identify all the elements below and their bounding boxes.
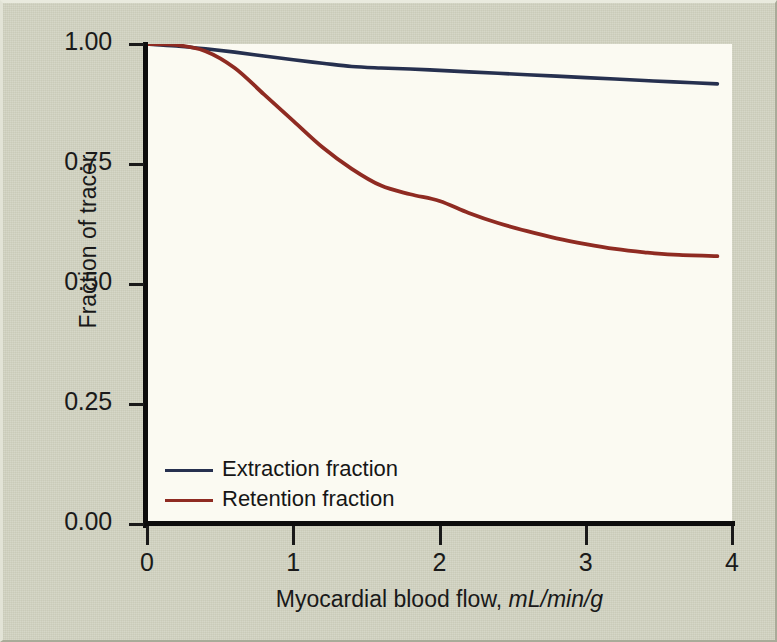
x-axis-tick-label: 2 [417, 548, 463, 577]
y-axis-tick [129, 523, 144, 526]
series-line-extraction-fraction [147, 44, 717, 84]
legend-swatch [165, 499, 213, 502]
legend: Extraction fractionRetention fraction [165, 456, 465, 516]
plot-svg [147, 44, 732, 524]
y-axis-tick [129, 163, 144, 166]
x-axis-tick [146, 526, 149, 545]
x-axis-tick-label: 0 [124, 548, 170, 577]
y-axis-tick [129, 43, 144, 46]
figure-canvas: 0.000.250.500.751.00 01234 Fraction of t… [0, 0, 777, 642]
x-axis-tick-label: 3 [563, 548, 609, 577]
x-axis-tick [292, 526, 295, 545]
y-axis-tick [129, 283, 144, 286]
x-axis-title: Myocardial blood flow, mL/min/g [147, 586, 732, 613]
x-axis-tick-label: 4 [709, 548, 755, 577]
x-axis-tick [585, 526, 588, 545]
legend-item[interactable]: Retention fraction [165, 486, 465, 516]
x-axis-tick [439, 526, 442, 545]
legend-label: Retention fraction [222, 486, 394, 512]
y-axis-tick-label: 0.00 [38, 507, 112, 536]
legend-item[interactable]: Extraction fraction [165, 456, 465, 486]
x-axis-tick-label: 1 [270, 548, 316, 577]
series-line-retention-fraction [147, 44, 717, 256]
legend-swatch [165, 469, 213, 472]
x-axis-title-units: mL/min/g [509, 586, 604, 612]
y-axis-title: Fraction of tracer [75, 92, 102, 392]
plot-area [147, 44, 732, 524]
x-axis-title-text: Myocardial blood flow, [276, 586, 509, 612]
x-axis-tick [731, 526, 734, 545]
y-axis-tick [129, 403, 144, 406]
legend-label: Extraction fraction [222, 456, 398, 482]
y-axis-tick-label: 1.00 [38, 27, 112, 56]
